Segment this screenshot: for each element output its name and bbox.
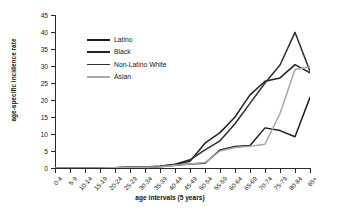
x-axis-tick-mark <box>55 169 56 173</box>
x-axis-tick-mark <box>235 169 236 173</box>
legend-swatch-line-icon <box>87 64 110 66</box>
x-axis-tick-mark <box>70 169 71 173</box>
x-axis-tick-mark <box>265 169 266 173</box>
legend-item[interactable]: Latino <box>87 34 207 46</box>
legend-label: Non-Latino White <box>114 59 167 70</box>
x-axis-title: age intervals (5 years) <box>0 194 340 201</box>
legend-swatch-line-icon <box>87 76 110 78</box>
x-axis-tick-mark <box>100 169 101 173</box>
y-axis-tick-label: 0 <box>26 165 48 172</box>
x-axis-tick-mark <box>205 169 206 173</box>
chart-legend: LatinoBlackNon-Latino WhiteAsian <box>87 34 207 84</box>
y-axis-tick-label: 10 <box>26 131 48 138</box>
x-axis-tick-mark <box>190 169 191 173</box>
x-axis-tick-mark <box>310 169 311 173</box>
x-axis-tick-mark <box>220 169 221 173</box>
x-axis-tick-mark <box>130 169 131 173</box>
y-axis-tick-label: 45 <box>26 12 48 19</box>
x-axis-tick-mark <box>250 169 251 173</box>
x-axis-tick-mark <box>175 169 176 173</box>
y-axis-tick-label: 35 <box>26 46 48 53</box>
y-axis-tick-label: 5 <box>26 148 48 155</box>
legend-swatch-line-icon <box>87 39 110 41</box>
x-axis-tick-mark <box>295 169 296 173</box>
series-line-latino <box>55 97 310 168</box>
x-axis-tick-mark <box>115 169 116 173</box>
y-axis-tick-label: 25 <box>26 80 48 87</box>
y-axis-tick-label: 20 <box>26 97 48 104</box>
x-axis-tick-mark <box>85 169 86 173</box>
legend-item[interactable]: Black <box>87 46 207 58</box>
x-axis-tick-mark <box>145 169 146 173</box>
legend-item[interactable]: Asian <box>87 71 207 83</box>
x-axis-line <box>55 168 311 169</box>
legend-label: Black <box>114 46 131 57</box>
legend-label: Latino <box>114 34 133 45</box>
legend-item[interactable]: Non-Latino White <box>87 59 207 71</box>
legend-swatch-line-icon <box>87 51 110 53</box>
y-axis-tick-label: 40 <box>26 29 48 36</box>
chart-figure: age-specific incidence rate 051015202530… <box>0 0 340 223</box>
x-axis-tick-mark <box>280 169 281 173</box>
y-axis-tick-label: 15 <box>26 114 48 121</box>
y-axis-tick-label: 30 <box>26 63 48 70</box>
legend-label: Asian <box>114 71 131 82</box>
x-axis-tick-mark <box>160 169 161 173</box>
